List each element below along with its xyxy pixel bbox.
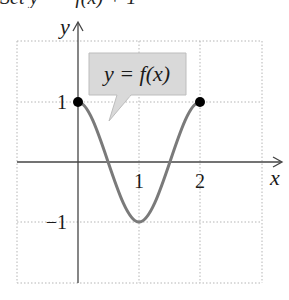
endpoint-marker [73, 97, 83, 107]
x-tick-2: 2 [195, 170, 205, 192]
function-graph: y = f(x) x y 1 2 1 −1 [0, 0, 289, 300]
endpoint-marker [195, 97, 205, 107]
y-axis-label: y [58, 14, 70, 39]
x-tick-1: 1 [134, 170, 144, 192]
callout-label: y = f(x) [102, 61, 170, 86]
x-axis-label: x [269, 165, 280, 190]
y-tick-1: 1 [57, 91, 67, 113]
y-tick-minus-1: −1 [46, 211, 67, 233]
